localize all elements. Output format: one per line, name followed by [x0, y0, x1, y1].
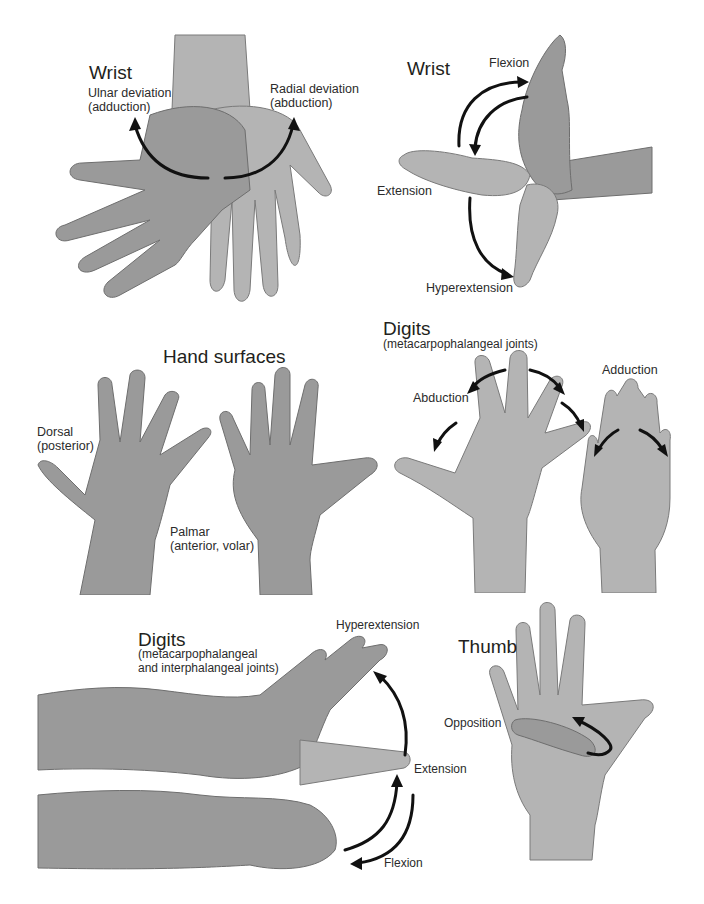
panel-digits-mcp-ip: Digits (metacarpophalangeal and interpha… — [0, 600, 460, 904]
digits-mcp-ip-subtitle: (metacarpophalangeal and interphalangeal… — [138, 648, 279, 676]
mcp-text: (metacarpophalangeal — [138, 648, 279, 662]
panel-wrist-flexion: Wrist Flexion Extension Hyperextension — [352, 0, 704, 320]
panel-wrist-deviation: Wrist Ulnar deviation (adduction) Radial… — [0, 0, 352, 320]
digits-mcp-illustration — [370, 318, 704, 593]
wrist-deviation-title: Wrist — [89, 62, 132, 84]
panel-digits-mcp: Digits (metacarpophalangeal joints) Abdu… — [370, 318, 704, 593]
digits-flexion-label: Flexion — [384, 857, 423, 871]
wrist-deviation-illustration — [0, 0, 352, 320]
panel-hand-surfaces: Hand surfaces Dorsal (posterior) Palmar … — [0, 330, 380, 595]
wrist-flexion-title: Wrist — [407, 58, 450, 80]
extension-label: Extension — [377, 184, 432, 198]
radial-deviation-text: Radial deviation — [270, 82, 359, 96]
ulnar-deviation-text: Ulnar deviation — [88, 86, 171, 100]
anterior-volar-text: (anterior, volar) — [170, 539, 254, 553]
hand-surfaces-illustration — [0, 330, 380, 595]
palmar-label: Palmar (anterior, volar) — [170, 525, 254, 554]
thumb-title: Thumb — [458, 636, 517, 658]
ip-joints-text: and interphalangeal joints) — [138, 662, 279, 676]
ulnar-deviation-label: Ulnar deviation (adduction) — [88, 86, 171, 115]
hand-surfaces-title: Hand surfaces — [163, 346, 286, 368]
hyperextension-label: Hyperextension — [426, 281, 513, 295]
ulnar-adduction-text: (adduction) — [88, 100, 171, 114]
radial-abduction-text: (abduction) — [270, 96, 359, 110]
palmar-text: Palmar — [170, 525, 254, 539]
digits-hyperextension-label: Hyperextension — [336, 619, 419, 633]
dorsal-text: Dorsal — [37, 425, 94, 439]
posterior-text: (posterior) — [37, 439, 94, 453]
radial-deviation-label: Radial deviation (abduction) — [270, 82, 359, 111]
wrist-flexion-illustration — [352, 0, 704, 320]
flexion-label: Flexion — [489, 56, 529, 70]
opposition-label: Opposition — [444, 717, 501, 731]
panel-thumb: Thumb Opposition — [440, 600, 704, 904]
adduction-label: Adduction — [602, 363, 658, 377]
dorsal-label: Dorsal (posterior) — [37, 425, 94, 454]
abduction-label: Abduction — [413, 391, 469, 405]
digits-mcp-subtitle: (metacarpophalangeal joints) — [383, 338, 538, 352]
